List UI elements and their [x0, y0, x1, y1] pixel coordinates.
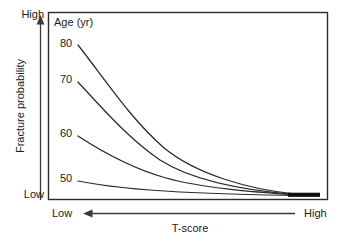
x-axis-low-label: Low — [52, 207, 72, 219]
y-axis-title: Fracture probability — [14, 41, 26, 171]
figure-panel: High Low Fracture probability Low High T… — [0, 0, 349, 245]
x-axis-arrow — [83, 209, 295, 217]
curve-label-age-80: 80 — [60, 37, 72, 49]
curve-label-age-50: 50 — [60, 172, 72, 184]
y-axis-high-label: High — [8, 8, 44, 20]
curve-label-age-60: 60 — [60, 127, 72, 139]
x-axis-high-label: High — [304, 207, 327, 219]
curve-label-age-70: 70 — [60, 73, 72, 85]
legend-title: Age (yr) — [54, 16, 93, 28]
y-axis-low-label: Low — [8, 188, 44, 200]
plot-frame — [49, 13, 328, 200]
y-axis-arrow — [37, 15, 45, 200]
x-axis-title: T-score — [140, 222, 240, 234]
